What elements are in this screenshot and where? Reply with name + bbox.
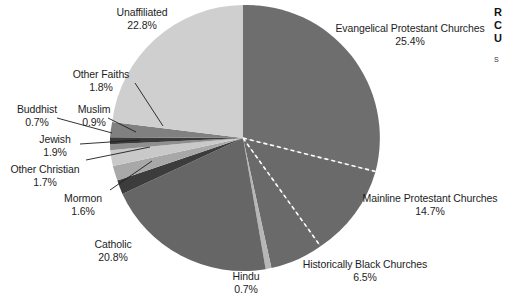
label-mainline-protestant-churches-name: Mainline Protestant Churches (350, 192, 510, 205)
label-historically-black-churches-value: 6.5% (290, 271, 440, 284)
label-other-christian-value: 1.7% (0, 176, 90, 189)
label-muslim-name: Muslim (66, 103, 122, 116)
label-mainline-protestant-churches-value: 14.7% (350, 205, 510, 218)
label-other-christian: Other Christian 1.7% (0, 163, 90, 188)
label-evangelical-protestant-churches-name: Evangelical Protestant Churches (320, 22, 500, 35)
label-hindu: Hindu 0.7% (218, 270, 274, 295)
label-mormon: Mormon 1.6% (52, 192, 114, 217)
label-other-christian-name: Other Christian (0, 163, 90, 176)
label-historically-black-churches-name: Historically Black Churches (290, 258, 440, 271)
side-caption: R C U S (494, 6, 516, 64)
label-unaffiliated-name: Unaffiliated (88, 6, 196, 19)
caption-subtitle: S (494, 55, 516, 64)
label-buddhist-value: 0.7% (6, 116, 68, 129)
label-buddhist: Buddhist 0.7% (6, 103, 68, 128)
label-catholic-name: Catholic (78, 238, 148, 251)
label-other-faiths-name: Other Faiths (56, 68, 146, 81)
pie-chart-figure: Unaffiliated 22.8% Evangelical Protestan… (0, 0, 516, 301)
label-catholic-value: 20.8% (78, 251, 148, 264)
label-hindu-value: 0.7% (218, 283, 274, 296)
label-jewish-name: Jewish (26, 133, 84, 146)
label-unaffiliated-value: 22.8% (88, 19, 196, 32)
label-other-faiths-value: 1.8% (56, 81, 146, 94)
label-jewish-value: 1.9% (26, 146, 84, 159)
label-catholic: Catholic 20.8% (78, 238, 148, 263)
label-mainline-protestant-churches: Mainline Protestant Churches 14.7% (350, 192, 510, 217)
label-hindu-name: Hindu (218, 270, 274, 283)
label-evangelical-protestant-churches: Evangelical Protestant Churches 25.4% (320, 22, 500, 47)
label-evangelical-protestant-churches-value: 25.4% (320, 35, 500, 48)
caption-title-line-2: C (494, 19, 516, 32)
label-mormon-value: 1.6% (52, 205, 114, 218)
label-unaffiliated: Unaffiliated 22.8% (88, 6, 196, 31)
label-mormon-name: Mormon (52, 192, 114, 205)
label-jewish: Jewish 1.9% (26, 133, 84, 158)
label-muslim: Muslim 0.9% (66, 103, 122, 128)
caption-title-line-1: R (494, 6, 516, 19)
label-buddhist-name: Buddhist (6, 103, 68, 116)
label-other-faiths: Other Faiths 1.8% (56, 68, 146, 93)
label-historically-black-churches: Historically Black Churches 6.5% (290, 258, 440, 283)
label-muslim-value: 0.9% (66, 116, 122, 129)
caption-title-line-3: U (494, 32, 516, 45)
